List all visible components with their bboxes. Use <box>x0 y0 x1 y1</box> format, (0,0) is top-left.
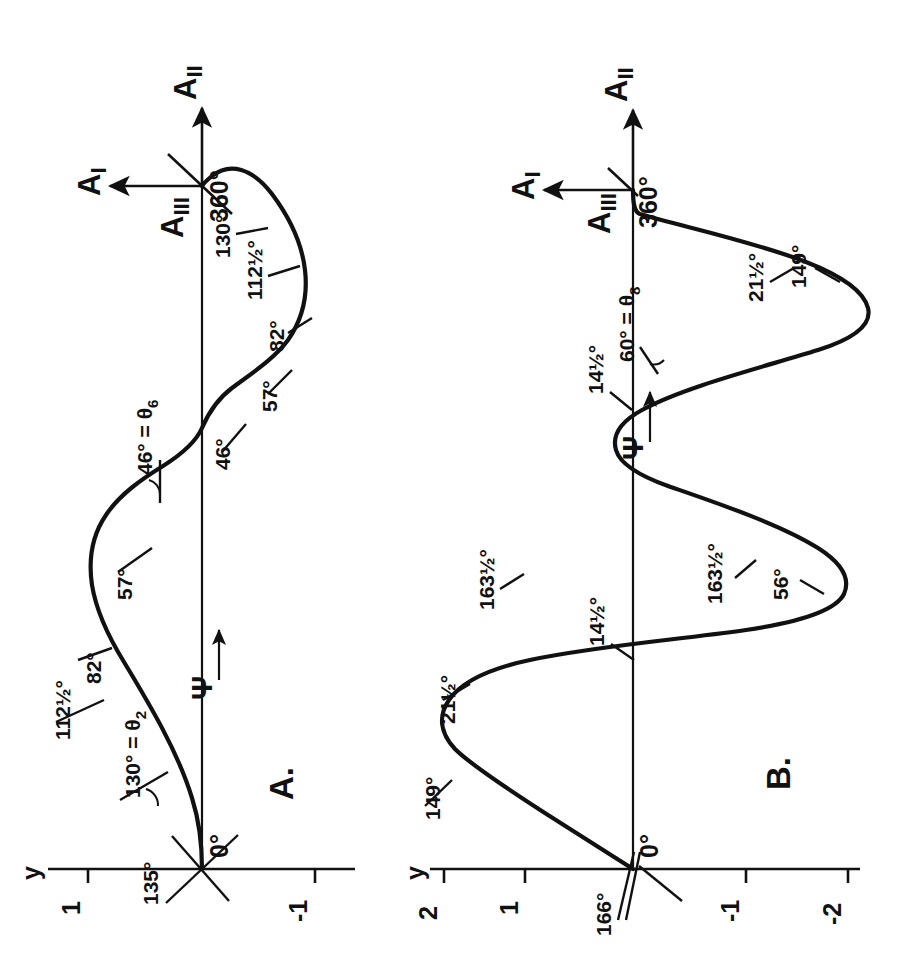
panel-a-label-ai: AI <box>72 167 111 196</box>
panel-b-label-14-5b: 14½° <box>584 345 607 394</box>
panel-b-letter: B. <box>760 757 797 790</box>
panel-b-leader-56 <box>800 580 824 594</box>
panel-a-yaxis-label: y <box>17 866 45 880</box>
panel-a-label-46: 46° <box>211 438 234 470</box>
panel-b-leader-60-theta8 <box>640 347 658 374</box>
panel-b-vector-labels: AII AI AIII <box>506 67 638 234</box>
panel-b-label-166: 166° <box>592 893 615 936</box>
panel-b: 166° 0° 360° 2 1 -1 -2 y Ψ B. AII AI AI <box>401 67 869 936</box>
panel-b-label-aiii: AIII <box>582 193 621 234</box>
panel-b-label-56: 56° <box>769 568 792 600</box>
panel-b-label-ai: AI <box>506 171 545 200</box>
panel-b-label-149b: 149° <box>787 245 810 288</box>
panel-a-label-130b: 130° <box>211 215 234 258</box>
panel-a-label-57: 57° <box>113 568 136 600</box>
panel-b-annotations: 149° 21½° 14½° 163½° 163½° 56° 14½° 6 <box>421 245 840 820</box>
panel-a-annotations: 130° = θ2 112½° 82° 57° 46° = θ6 46° 57° <box>51 215 312 806</box>
panel-b-label-21-5: 21½° <box>436 675 459 724</box>
figure-root: 135° 0° 360° 1 -1 y Ψ A. AII AI <box>0 0 915 962</box>
panel-a-label-82: 82° <box>82 652 105 684</box>
panel-a-label-57b: 57° <box>258 380 281 412</box>
panel-b-psi-symbol: Ψ <box>616 436 649 460</box>
panel-b-label-14-5: 14½° <box>585 597 608 646</box>
panel-a-label-135: 135° <box>139 862 162 905</box>
panel-a-leader-112b <box>268 266 300 276</box>
panel-a-label-46-theta6: 46° = θ6 <box>133 400 161 475</box>
panel-b-ytick-minus1: -1 <box>716 900 744 922</box>
panel-b-label-163-5: 163½° <box>475 549 498 610</box>
panel-b-label-149: 149° <box>421 777 444 820</box>
panel-b-leader-14b <box>610 392 632 410</box>
panel-a-vector-labels: AII AI AIII <box>72 65 207 238</box>
panel-b-ytick-minus2: -2 <box>818 903 846 925</box>
panel-a-label-360deg: 360° <box>205 170 233 222</box>
panel-b-origin-slope-marker <box>618 852 682 920</box>
figure-svg: 135° 0° 360° 1 -1 y Ψ A. AII AI <box>0 0 915 962</box>
panel-a-ytick-minus1: -1 <box>284 900 312 922</box>
panel-b-label-360deg: 360° <box>634 176 662 228</box>
panel-a: 135° 0° 360° 1 -1 y Ψ A. AII AI <box>17 65 355 922</box>
panel-b-leader-163 <box>500 574 524 589</box>
panel-b-ytick-2: 2 <box>414 906 442 920</box>
panel-a-ytick-1: 1 <box>57 901 85 915</box>
panel-b-label-aii: AII <box>599 67 638 102</box>
panel-a-label-82b: 82° <box>265 320 288 352</box>
panel-a-label-aiii: AIII <box>155 197 194 238</box>
panel-a-psi-symbol: Ψ <box>185 676 218 700</box>
panel-a-label-112-5: 112½° <box>51 680 74 740</box>
panel-a-letter: A. <box>263 767 300 800</box>
panel-b-leader-163b <box>735 560 756 578</box>
panel-b-label-60-theta8: 60° = θ8 <box>615 287 643 362</box>
panel-b-label-21-5b: 21½° <box>744 253 767 302</box>
panel-b-ytick-1: 1 <box>495 901 523 915</box>
panel-a-label-112b: 112½° <box>243 240 266 300</box>
panel-a-leader-130b <box>236 228 268 234</box>
panel-b-label-0deg: 0° <box>635 834 663 858</box>
panel-a-label-aii: AII <box>168 65 207 100</box>
panel-b-yaxis-label: y <box>401 866 429 880</box>
panel-a-label-0deg: 0° <box>205 834 233 858</box>
panel-b-curve <box>442 190 869 869</box>
panel-b-label-163-5b: 163½° <box>703 543 726 604</box>
